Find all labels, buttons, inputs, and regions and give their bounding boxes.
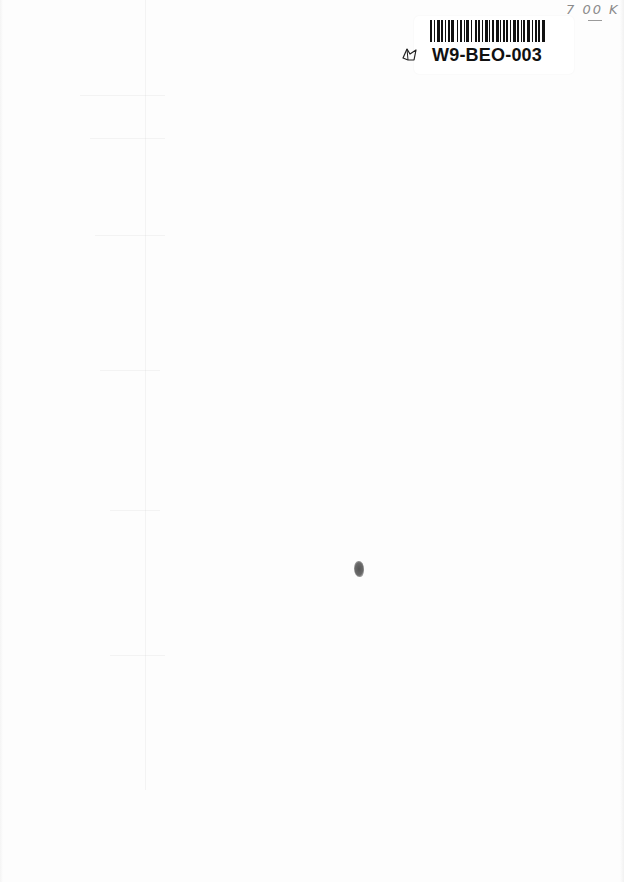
barcode (430, 20, 560, 42)
bleed-through-line (95, 235, 165, 236)
ink-speck (354, 561, 364, 577)
barcode-id-text: W9-BEO-003 (432, 45, 542, 66)
book-icon (402, 47, 418, 63)
handwritten-underline (588, 20, 602, 21)
bleed-through-line (90, 138, 165, 139)
handwritten-note: 7 00 K (566, 2, 620, 17)
bleed-through-line (100, 370, 160, 371)
barcode-label-row: W9-BEO-003 (400, 43, 580, 67)
bleed-through-line (110, 510, 160, 511)
bleed-through-line (80, 95, 165, 96)
bleed-through-line (110, 655, 165, 656)
bleed-through-line (145, 0, 146, 790)
scanned-page: W9-BEO-003 7 00 K (0, 0, 624, 882)
